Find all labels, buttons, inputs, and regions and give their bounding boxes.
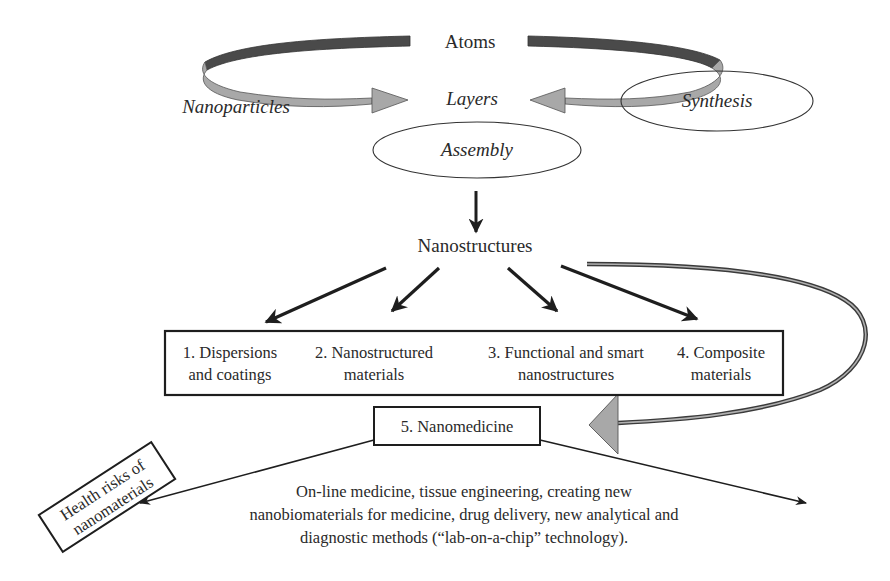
category-2-line1: 2. Nanostructured xyxy=(315,343,434,362)
category-1-line2: and coatings xyxy=(189,365,272,384)
arrow-to-nanostructured-icon xyxy=(392,268,439,311)
description-line1: On-line medicine, tissue engineering, cr… xyxy=(296,482,632,501)
nanomedicine-node: 5. Nanomedicine xyxy=(374,407,540,445)
category-4-line1: 4. Composite xyxy=(677,343,765,362)
arrow-to-dispersions-icon xyxy=(266,268,386,322)
nanostructures-label: Nanostructures xyxy=(417,235,532,256)
atoms-label: Atoms xyxy=(445,31,496,52)
description-line2: nanobiomaterials for medicine, drug deli… xyxy=(249,505,679,524)
synthesis-label: Synthesis xyxy=(682,90,753,111)
categories-box: 1. Dispersions and coatings 2. Nanostruc… xyxy=(165,331,783,395)
nanomedicine-label: 5. Nanomedicine xyxy=(401,417,514,436)
nanoparticles-label: Nanoparticles xyxy=(181,96,290,117)
health-risks-node: Health risks of nanomaterials xyxy=(39,442,175,552)
branch-arrows xyxy=(266,266,697,322)
nanotechnology-diagram: Atoms Layers Nanoparticles Synthesis Ass… xyxy=(0,0,890,581)
category-1-line1: 1. Dispersions xyxy=(183,343,277,362)
arrow-to-functional-icon xyxy=(508,268,557,311)
layers-label: Layers xyxy=(445,88,498,109)
category-2-line2: materials xyxy=(344,365,404,384)
assembly-node: Assembly xyxy=(373,122,581,178)
category-3-line1: 3. Functional and smart xyxy=(488,343,644,362)
category-4-line2: materials xyxy=(691,365,751,384)
description-line3: diagnostic methods (“lab-on-a-chip” tech… xyxy=(300,528,628,547)
arrow-to-composite-icon xyxy=(561,266,697,319)
applications-description: On-line medicine, tissue engineering, cr… xyxy=(249,482,679,547)
category-3-line2: nanostructures xyxy=(518,365,614,384)
assembly-label: Assembly xyxy=(439,139,513,160)
